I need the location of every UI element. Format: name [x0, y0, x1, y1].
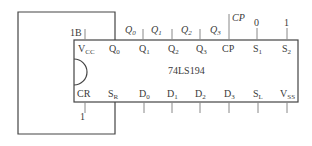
- pin-vss: VSS: [280, 89, 295, 99]
- pin-d3: D3: [224, 89, 235, 99]
- pin-d1: D1: [167, 89, 178, 99]
- chip-part-number: 74LS194: [168, 65, 205, 76]
- s2-value-label: 1: [284, 18, 289, 28]
- q0-output-label: Q0: [125, 25, 136, 35]
- clock-input-label: CP: [232, 13, 245, 23]
- pin-q2: Q2: [168, 44, 179, 54]
- pin-q3: Q3: [196, 44, 207, 54]
- vcc-input-label: 1B: [70, 28, 82, 38]
- feedback-wire: [18, 12, 115, 134]
- pin-vcc: VCC: [78, 44, 95, 54]
- pin-cp: CP: [222, 44, 234, 54]
- pin-s2: S2: [282, 44, 291, 54]
- pin-sl: SL: [253, 89, 263, 99]
- pin-sr: SR: [108, 89, 118, 99]
- pin-d2: D2: [195, 89, 206, 99]
- pin-cr: CR: [77, 89, 90, 99]
- pin-q1: Q1: [139, 44, 150, 54]
- q1-output-label: Q1: [151, 25, 162, 35]
- q2-output-label: Q2: [181, 25, 192, 35]
- s1-value-label: 0: [254, 18, 259, 28]
- pin-d0: D0: [139, 89, 150, 99]
- pin-s1: S1: [253, 44, 262, 54]
- pin-q0: Q0: [109, 44, 120, 54]
- chip-notch: [74, 59, 87, 85]
- q3-output-label: Q3: [210, 25, 221, 35]
- circuit-wiring: [0, 0, 312, 146]
- cr-value-label: 1: [80, 112, 85, 122]
